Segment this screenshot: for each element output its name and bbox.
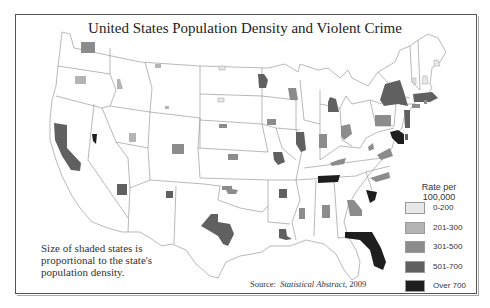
state-shape-rhode-island	[424, 100, 427, 104]
legend-label: 0-200	[433, 202, 453, 214]
state-shape-new-york	[380, 80, 408, 106]
state-shape-oklahoma	[222, 186, 238, 194]
legend-item-0-200: 0-200	[401, 202, 477, 222]
source-publication: Statistical Abstract,	[280, 279, 347, 289]
legend-item-501-700: 501-700	[401, 261, 477, 281]
state-shape-nebraska	[219, 124, 227, 128]
state-shape-michigan	[328, 97, 339, 112]
source-citation: Source: Statistical Abstract, 2009	[250, 279, 366, 289]
state-shape-south-carolina	[366, 190, 377, 203]
state-shape-kansas	[228, 154, 238, 160]
legend-label: 501-700	[433, 261, 462, 273]
state-shape-utah	[129, 133, 136, 142]
legend-swatch	[405, 241, 425, 253]
map-title: United States Population Density and Vio…	[0, 20, 490, 37]
state-shape-florida	[345, 232, 386, 270]
source-year: 2009	[349, 279, 366, 289]
state-shape-montana	[155, 64, 161, 68]
state-shape-connecticut	[412, 104, 420, 108]
legend-label: 201-300	[433, 222, 462, 234]
legend-swatch	[405, 280, 425, 292]
note-line: population density.	[41, 266, 221, 278]
legend-swatch	[405, 261, 425, 273]
state-shape-georgia	[347, 200, 362, 216]
legend-title-line2: 100,000	[401, 192, 477, 202]
legend: Rate per 100,000 0-200 201-300 301-500 5…	[401, 182, 477, 300]
state-shape-vermont	[413, 78, 416, 84]
state-shape-louisiana	[279, 229, 292, 240]
legend-item-over-700: Over 700	[401, 280, 477, 300]
legend-item-301-500: 301-500	[401, 241, 477, 261]
state-shape-mississippi	[299, 208, 305, 219]
state-shape-north-carolina	[370, 172, 390, 182]
state-shape-california	[54, 123, 81, 171]
state-shape-tennessee	[318, 175, 340, 183]
size-note: Size of shaded states is proportional to…	[41, 242, 221, 278]
legend-label: 301-500	[433, 241, 462, 253]
state-shape-ohio	[341, 124, 352, 140]
state-shape-delaware	[405, 134, 408, 140]
state-shape-arizona	[117, 184, 127, 195]
state-shape-wyoming	[165, 106, 169, 109]
state-shape-new-hampshire	[422, 76, 428, 84]
state-shape-wisconsin	[288, 88, 298, 100]
state-shape-minnesota	[258, 74, 268, 88]
state-shape-missouri	[273, 152, 285, 165]
source-prefix: Source:	[250, 279, 276, 289]
state-shape-iowa	[267, 119, 276, 125]
state-shape-washington	[81, 42, 95, 53]
state-shape-west-virginia	[368, 143, 374, 151]
legend-swatch	[405, 202, 425, 214]
state-shape-idaho	[117, 79, 123, 89]
state-shape-nevada	[92, 134, 97, 144]
note-line: Size of shaded states is	[41, 242, 221, 254]
legend-title-line1: Rate per	[401, 182, 477, 192]
state-shape-pennsylvania	[375, 115, 391, 126]
state-shape-new-jersey	[404, 110, 410, 128]
legend-label: Over 700	[433, 280, 466, 292]
state-shape-south-dakota	[218, 98, 224, 102]
state-shape-maine	[434, 60, 440, 66]
state-shape-indiana	[319, 134, 327, 148]
state-shape-new-mexico	[166, 191, 173, 198]
state-shape-north-dakota	[219, 66, 225, 70]
state-shape-kentucky	[330, 158, 346, 166]
state-shape-oregon	[75, 76, 86, 84]
state-shape-alabama	[322, 205, 330, 218]
legend-item-201-300: 201-300	[401, 222, 477, 242]
legend-title: Rate per 100,000	[401, 182, 477, 202]
state-shape-colorado	[172, 144, 184, 154]
state-shape-maryland	[390, 130, 404, 144]
state-shape-illinois	[296, 132, 306, 152]
note-line: proportional to the state's	[41, 254, 221, 266]
legend-swatch	[405, 222, 425, 234]
state-shape-arkansas	[279, 189, 287, 198]
